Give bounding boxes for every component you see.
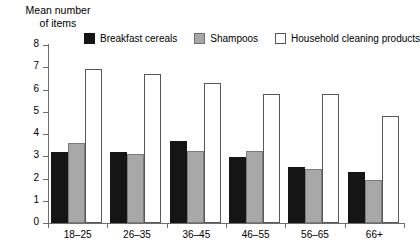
bar[interactable]: [348, 172, 365, 223]
legend-swatch-icon: [194, 33, 205, 44]
bar-group: [285, 45, 344, 223]
y-axis-title-line-2: of items: [40, 17, 77, 29]
legend-item-0[interactable]: Breakfast cereals: [84, 33, 177, 44]
y-axis-tick-label: 4: [19, 127, 39, 139]
legend-swatch-icon: [84, 33, 95, 44]
bar-group: [345, 45, 404, 223]
bar[interactable]: [85, 69, 102, 223]
y-axis-tick-label: 2: [19, 172, 39, 184]
y-axis-tick-label: 3: [19, 149, 39, 161]
bar[interactable]: [127, 154, 144, 223]
legend-swatch-icon: [275, 33, 286, 44]
bar[interactable]: [204, 83, 221, 223]
x-axis-tick: [107, 223, 108, 228]
bar-group: [167, 45, 226, 223]
x-axis-tick: [226, 223, 227, 228]
bar[interactable]: [305, 169, 322, 224]
y-axis-tick-label: 0: [19, 216, 39, 228]
y-axis-tick-label: 6: [19, 83, 39, 95]
y-axis-tick-label: 1: [19, 194, 39, 206]
x-axis-tick: [345, 223, 346, 228]
x-axis-label: 56–65: [287, 229, 343, 240]
bar[interactable]: [68, 143, 85, 223]
x-axis-label: 18–25: [50, 229, 106, 240]
x-axis-label: 46–55: [228, 229, 284, 240]
x-axis-tick: [404, 223, 405, 228]
bar[interactable]: [51, 152, 68, 223]
bar[interactable]: [263, 94, 280, 223]
bar[interactable]: [288, 167, 305, 223]
legend-item-2[interactable]: Household cleaning products: [275, 33, 420, 44]
legend-label: Household cleaning products: [291, 33, 420, 44]
chart-legend: Breakfast cerealsShampoosHousehold clean…: [84, 33, 420, 44]
bar-group: [226, 45, 285, 223]
bar[interactable]: [110, 152, 127, 223]
bar[interactable]: [229, 157, 246, 223]
x-axis-tick: [167, 223, 168, 228]
bar[interactable]: [144, 74, 161, 223]
bar[interactable]: [170, 141, 187, 223]
bar[interactable]: [246, 151, 263, 223]
y-axis-tick-label: 7: [19, 60, 39, 72]
y-axis-title: Mean number of items: [12, 4, 104, 30]
x-axis-label: 26–35: [109, 229, 165, 240]
y-axis-tick-label: 5: [19, 105, 39, 117]
bar[interactable]: [187, 151, 204, 223]
bar[interactable]: [322, 94, 339, 223]
plot-area: 01234567818–2526–3536–4546–5556–6566+: [48, 45, 404, 223]
bar-group: [107, 45, 166, 223]
legend-label: Breakfast cereals: [100, 33, 177, 44]
x-axis-label: 66+: [346, 229, 402, 240]
bar-group: [48, 45, 107, 223]
bar[interactable]: [365, 180, 382, 223]
bar[interactable]: [382, 116, 399, 223]
x-axis-tick: [48, 223, 49, 228]
legend-label: Shampoos: [210, 33, 258, 44]
x-axis-tick: [285, 223, 286, 228]
legend-item-1[interactable]: Shampoos: [194, 33, 258, 44]
x-axis-label: 36–45: [168, 229, 224, 240]
y-axis-title-line-1: Mean number: [26, 4, 91, 16]
y-axis-tick-label: 8: [19, 38, 39, 50]
